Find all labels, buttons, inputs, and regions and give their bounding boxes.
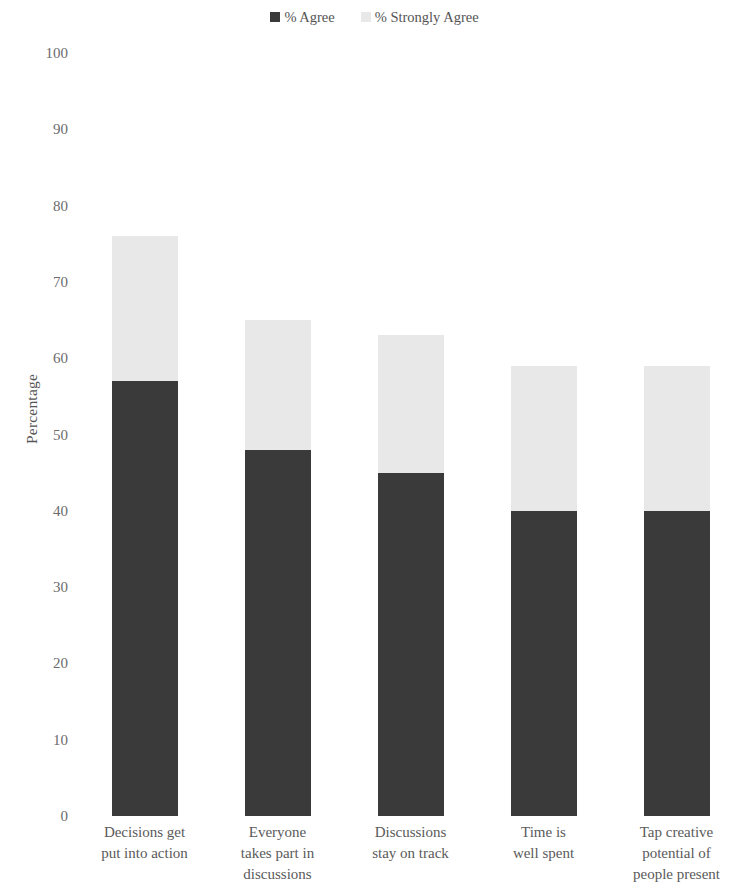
- bar-group[interactable]: [511, 53, 577, 816]
- x-tick-label-line: takes part in: [214, 843, 342, 864]
- x-tick-label-line: discussions: [214, 864, 342, 885]
- bar-group[interactable]: [245, 53, 311, 816]
- x-tick-label: Decisions getput into action: [81, 822, 209, 864]
- bar-stack: [511, 366, 577, 816]
- x-tick-label-line: Discussions: [347, 822, 475, 843]
- x-tick-label-line: Decisions get: [81, 822, 209, 843]
- bar-segment-agree[interactable]: [511, 511, 577, 816]
- bar-segment-strongly-agree[interactable]: [245, 320, 311, 450]
- bar-segment-strongly-agree[interactable]: [644, 366, 710, 511]
- bar-segment-agree[interactable]: [378, 473, 444, 816]
- x-tick-label-line: well spent: [480, 843, 608, 864]
- bar-segment-strongly-agree[interactable]: [112, 236, 178, 381]
- bar-segment-strongly-agree[interactable]: [511, 366, 577, 511]
- bar-stack: [644, 366, 710, 816]
- y-tick-label-0: 0: [24, 808, 68, 825]
- bar-stack: [378, 335, 444, 816]
- x-tick-label-line: Everyone: [214, 822, 342, 843]
- bar-segment-strongly-agree[interactable]: [378, 335, 444, 472]
- y-axis-tick-labels: 0102030405060708090100: [12, 0, 68, 889]
- bar-segment-agree[interactable]: [245, 450, 311, 816]
- y-tick-label-20: 20: [24, 655, 68, 672]
- bar-stack: [112, 236, 178, 816]
- y-tick-label-80: 80: [24, 197, 68, 214]
- y-tick-label-10: 10: [24, 731, 68, 748]
- x-tick-label-line: stay on track: [347, 843, 475, 864]
- y-tick-label-40: 40: [24, 502, 68, 519]
- bar-group[interactable]: [644, 53, 710, 816]
- y-tick-label-70: 70: [24, 273, 68, 290]
- bar-stack: [245, 320, 311, 816]
- x-tick-label-line: put into action: [81, 843, 209, 864]
- y-tick-label-30: 30: [24, 579, 68, 596]
- x-tick-label: Discussionsstay on track: [347, 822, 475, 864]
- y-tick-label-60: 60: [24, 350, 68, 367]
- y-tick-label-50: 50: [24, 426, 68, 443]
- x-axis-tick-labels: Decisions getput into actionEveryonetake…: [78, 822, 743, 889]
- bar-segment-agree[interactable]: [644, 511, 710, 816]
- x-tick-label: Tap creativepotential ofpeople present: [613, 822, 741, 885]
- x-tick-label-line: potential of: [613, 843, 741, 864]
- y-tick-label-100: 100: [24, 45, 68, 62]
- x-tick-label-line: Tap creative: [613, 822, 741, 843]
- plot-area: [78, 53, 743, 816]
- bar-group[interactable]: [378, 53, 444, 816]
- stacked-bar-chart: Percentage 0102030405060708090100 Decisi…: [0, 0, 749, 889]
- x-tick-label: Everyonetakes part indiscussions: [214, 822, 342, 885]
- y-tick-label-90: 90: [24, 121, 68, 138]
- bar-segment-agree[interactable]: [112, 381, 178, 816]
- x-tick-label-line: Time is: [480, 822, 608, 843]
- x-tick-label-line: people present: [613, 864, 741, 885]
- x-tick-label: Time iswell spent: [480, 822, 608, 864]
- bar-group[interactable]: [112, 53, 178, 816]
